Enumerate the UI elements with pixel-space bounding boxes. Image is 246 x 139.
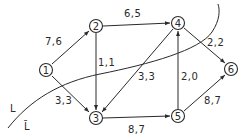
edge-label-2-4: 6,5 <box>124 8 141 19</box>
edge-2-4: 6,5 <box>103 8 170 26</box>
edge-1-3: 3,3 <box>52 76 89 112</box>
edge-5-4: 2,0 <box>178 31 198 109</box>
edge-label-2-3: 1,1 <box>98 57 115 68</box>
svg-text:6: 6 <box>228 64 234 75</box>
svg-text:5: 5 <box>175 111 181 122</box>
svg-text:1: 1 <box>43 65 49 76</box>
edge-label-4-6: 2,2 <box>207 37 224 48</box>
svg-text:3: 3 <box>93 113 99 124</box>
node-6: 6 <box>225 63 238 76</box>
svg-text:2: 2 <box>93 21 99 32</box>
edge-label-5-4: 2,0 <box>181 71 198 82</box>
edge-label-5-6: 8,7 <box>204 95 221 106</box>
node-5: 5 <box>172 110 185 123</box>
edge-label-4-3: 3,3 <box>138 71 155 82</box>
edge-1-2: 7,6 <box>45 31 89 64</box>
edge-4-6: 2,2 <box>184 28 225 63</box>
node-2: 2 <box>90 20 103 33</box>
svg-text:4: 4 <box>175 18 181 29</box>
edge-label-3-5: 8,7 <box>128 124 145 135</box>
flow-network-diagram: L L̄ 7,6 3,3 6,5 1,1 3,3 2,2 8,7 <box>0 0 246 139</box>
edge-label-1-3: 3,3 <box>55 95 72 106</box>
edge-label-1-2: 7,6 <box>45 36 62 47</box>
edge-3-5: 8,7 <box>103 116 170 135</box>
node-1: 1 <box>40 64 53 77</box>
node-3: 3 <box>90 112 103 125</box>
node-4: 4 <box>172 17 185 30</box>
cut-complement-label: L̄ <box>24 120 30 132</box>
cut-side-label: L <box>10 103 16 114</box>
edge-4-3: 3,3 <box>102 29 173 112</box>
